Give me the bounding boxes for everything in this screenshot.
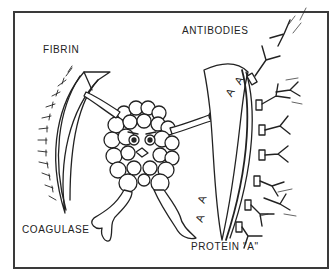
free-antibodies — [260, 8, 306, 216]
bacterium-legs — [92, 190, 196, 241]
label-protein-a: PROTEIN "A" — [191, 241, 259, 252]
illustration-canvas: A A A A FIBRIN ANTIBODIES COAGULASE PROT… — [0, 0, 335, 278]
fibrin-shield — [56, 72, 110, 213]
illustration-drawing — [0, 0, 335, 278]
label-fibrin: FIBRIN — [43, 44, 79, 55]
label-antibodies: ANTIBODIES — [182, 25, 249, 36]
label-coagulase: COAGULASE — [22, 224, 90, 235]
